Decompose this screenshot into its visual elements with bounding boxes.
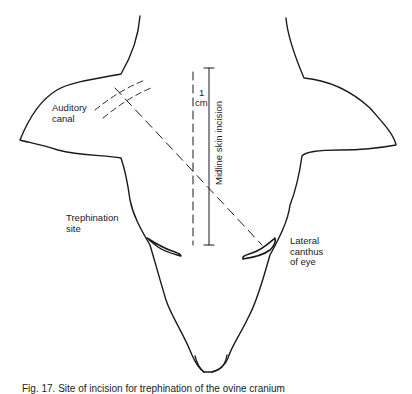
head-outline-left bbox=[20, 16, 204, 372]
figure-caption: Fig. 17. Site of incision for trephinati… bbox=[22, 383, 285, 394]
auditory-canal-lower bbox=[103, 88, 151, 118]
label-scale-cm: cm bbox=[195, 98, 208, 109]
label-trephination-site: Trephination site bbox=[66, 213, 118, 234]
label-auditory-canal: Auditory canal bbox=[52, 103, 87, 124]
nose-right bbox=[212, 355, 227, 372]
head-outline-right bbox=[204, 18, 396, 372]
label-lateral-canthus: Lateral canthus of eye bbox=[290, 236, 323, 268]
label-midline-skin-incision: Midline skin incision bbox=[213, 101, 224, 185]
